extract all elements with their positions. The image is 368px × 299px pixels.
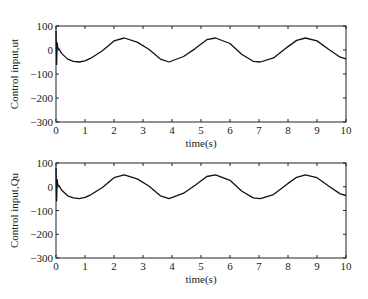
- x-tick-label: 5: [198, 124, 204, 136]
- axes-frame: [56, 163, 346, 258]
- chart-canvas-bottom: 012345678910−300−200−1000100time(s)Contr…: [0, 137, 368, 299]
- x-tick-label: 8: [285, 260, 291, 272]
- chart-canvas-top: 012345678910−300−200−1000100time(s)Contr…: [0, 0, 368, 150]
- x-tick-label: 0: [53, 260, 59, 272]
- x-tick-label: 0: [53, 124, 59, 136]
- y-tick-label: 100: [37, 20, 54, 32]
- y-axis-label: Control input,ut: [8, 39, 20, 109]
- series-line-qu: [56, 168, 346, 201]
- x-tick-label: 8: [285, 124, 291, 136]
- y-tick-label: −200: [30, 92, 53, 104]
- x-tick-label: 1: [82, 124, 88, 136]
- y-tick-label: 100: [37, 157, 54, 169]
- y-tick-label: −100: [30, 205, 53, 217]
- y-axis-label: Control input,Qu: [8, 172, 20, 248]
- y-tick-label: 0: [48, 44, 54, 56]
- x-tick-label: 3: [140, 260, 146, 272]
- plot-control-input-ut: 012345678910−300−200−1000100time(s)Contr…: [0, 0, 368, 150]
- x-tick-label: 9: [314, 260, 320, 272]
- x-tick-label: 4: [169, 124, 175, 136]
- y-tick-label: −100: [30, 68, 53, 80]
- axes-frame: [56, 26, 346, 122]
- x-tick-label: 1: [82, 260, 88, 272]
- x-tick-label: 2: [111, 260, 117, 272]
- x-tick-label: 5: [198, 260, 204, 272]
- x-tick-label: 4: [169, 260, 175, 272]
- x-tick-label: 3: [140, 124, 146, 136]
- x-axis-label: time(s): [185, 273, 216, 286]
- x-tick-label: 10: [341, 124, 353, 136]
- x-tick-label: 10: [341, 260, 353, 272]
- y-tick-label: −300: [30, 252, 53, 264]
- y-tick-label: 0: [48, 181, 54, 193]
- x-tick-label: 6: [227, 124, 233, 136]
- x-tick-label: 7: [256, 260, 262, 272]
- y-tick-label: −300: [30, 116, 53, 128]
- x-tick-label: 7: [256, 124, 262, 136]
- x-tick-label: 9: [314, 124, 320, 136]
- y-tick-label: −200: [30, 228, 53, 240]
- plot-control-input-qu: 012345678910−300−200−1000100time(s)Contr…: [0, 137, 368, 299]
- series-line-ut: [56, 31, 346, 65]
- x-tick-label: 2: [111, 124, 117, 136]
- x-tick-label: 6: [227, 260, 233, 272]
